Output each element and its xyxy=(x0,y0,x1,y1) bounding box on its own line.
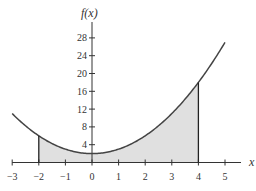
y-tick-label: 16 xyxy=(77,86,87,97)
y-tick-label: 24 xyxy=(77,50,87,61)
x-tick-label: 3 xyxy=(169,171,174,182)
x-tick-label: −3 xyxy=(7,171,18,182)
x-axis: −3−2−1012345 xyxy=(7,160,241,182)
y-tick-label: 20 xyxy=(77,68,87,79)
x-tick-label: 0 xyxy=(90,171,95,182)
shaded-area xyxy=(39,82,199,162)
x-tick-label: −1 xyxy=(60,171,71,182)
y-tick-label: 28 xyxy=(77,32,87,43)
y-tick-label: 12 xyxy=(77,104,87,115)
x-tick-label: 2 xyxy=(143,171,148,182)
x-tick-label: 5 xyxy=(223,171,228,182)
y-tick-label: 4 xyxy=(82,139,87,150)
x-tick-label: 4 xyxy=(196,171,201,182)
y-axis-title: f(x) xyxy=(81,6,98,20)
y-axis: 481216202428 xyxy=(77,22,95,163)
x-tick-label: −2 xyxy=(33,171,44,182)
x-axis-title: x xyxy=(248,155,255,169)
area-under-curve-chart: −3−2−1012345 481216202428 x f(x) xyxy=(0,0,256,191)
x-tick-label: 1 xyxy=(116,171,121,182)
y-tick-label: 8 xyxy=(82,121,87,132)
